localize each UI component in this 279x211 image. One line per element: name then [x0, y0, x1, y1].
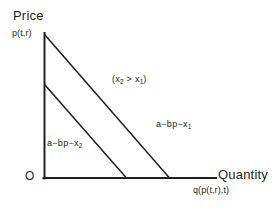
curve-label-inner-subscript: 2 [79, 142, 83, 149]
curve-label-inner-text: a−bp−x [47, 138, 79, 148]
y-axis-title: Price [13, 9, 44, 22]
curve-label-outer-subscript: 1 [188, 123, 192, 130]
x-axis-title: Quantity [218, 168, 268, 181]
y-intercept-label: p(t,r) [12, 29, 32, 38]
annotation-close: ) [143, 74, 146, 84]
annotation-open: (x [112, 74, 120, 84]
demand-curve-inner [45, 85, 126, 178]
curve-label-outer-text: a−bp−x [156, 119, 188, 129]
x-intercept-label: q(p(t,r),t) [193, 186, 229, 195]
annotation-relation: > x [124, 74, 140, 84]
demand-curve-figure: Price p(t,r) Quantity q(p(t,r),t) O a−bp… [0, 0, 279, 211]
curve-label-outer: a−bp−x1 [156, 120, 191, 130]
origin-label: O [25, 170, 34, 182]
comparison-annotation: (x2 > x1) [112, 75, 147, 85]
curve-label-inner: a−bp−x2 [47, 139, 82, 149]
